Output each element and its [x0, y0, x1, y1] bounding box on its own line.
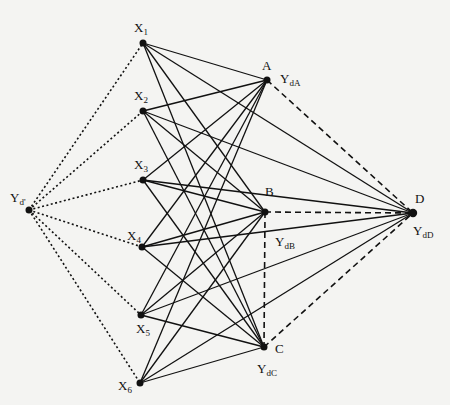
label-ydb: YdB [275, 234, 295, 251]
node-label-x1: X1 [134, 20, 148, 37]
edge-x4-a [142, 80, 267, 247]
label-yda: YdA [280, 71, 301, 88]
edge-x1-d [143, 43, 413, 213]
edge-x2-d [143, 111, 413, 213]
node-label-x4: X4 [127, 228, 141, 245]
edge-x3-d [143, 180, 413, 213]
node-label-d: D [415, 191, 424, 206]
edges-layer [29, 43, 413, 383]
node-label-a: A [262, 58, 272, 73]
edge-x5-d [141, 213, 413, 315]
node-label-yd: Yd' [10, 190, 26, 207]
label-ydc: YdC [257, 361, 277, 378]
node-label-x3: X3 [134, 157, 148, 174]
node-label-x6: X6 [118, 378, 132, 395]
node-yd [26, 207, 33, 214]
edge-x1-c [143, 43, 264, 347]
node-a [264, 77, 271, 84]
node-label-c: C [275, 341, 284, 356]
edge-c-d [264, 213, 413, 347]
node-b [262, 209, 269, 216]
edge-x1-a [143, 43, 267, 80]
node-c [261, 344, 268, 351]
edge-b-d [265, 212, 413, 213]
diagram-canvas: Yd'X1X2X3X4X5X6ABCDYdAYdBYdCYdD [0, 0, 450, 405]
network-diagram: Yd'X1X2X3X4X5X6ABCDYdAYdBYdCYdD [0, 0, 450, 405]
edge-yd-x6 [29, 210, 140, 383]
node-d [409, 209, 417, 217]
node-label-b: B [265, 184, 274, 199]
edge-x6-b [140, 212, 265, 383]
node-x5 [138, 312, 145, 319]
node-x3 [140, 177, 147, 184]
edge-x6-c [140, 347, 264, 383]
label-ydd: YdD [413, 223, 434, 240]
node-x2 [140, 108, 147, 115]
edge-a-d [267, 80, 413, 213]
edge-x6-a [140, 80, 267, 383]
edge-yd-x4 [29, 210, 142, 247]
node-x1 [140, 40, 147, 47]
edge-x3-b [143, 180, 265, 212]
edge-yd-x5 [29, 210, 141, 315]
node-label-x2: X2 [134, 88, 148, 105]
node-x6 [137, 380, 144, 387]
edge-b-c [264, 212, 265, 347]
edge-x5-c [141, 315, 264, 347]
edge-x4-b [142, 212, 265, 247]
node-label-x5: X5 [136, 321, 150, 338]
